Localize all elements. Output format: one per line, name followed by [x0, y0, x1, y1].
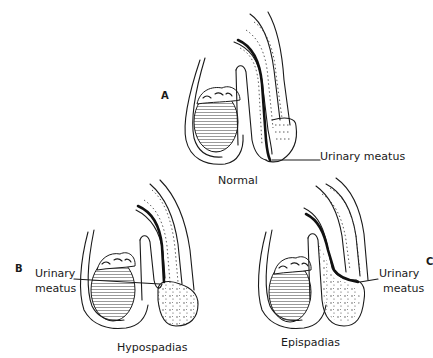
- panel-a-letter: A: [161, 90, 169, 101]
- panel-b-meatus-label-line1: Urinary: [35, 268, 75, 280]
- panel-a-normal-drawing: [185, 12, 297, 164]
- panel-a-meatus-label: Urinary meatus: [320, 151, 405, 163]
- panel-c-epispadias-drawing: [259, 178, 368, 328]
- panel-b-caption: Hypospadias: [117, 342, 187, 354]
- panel-b-meatus-label-line2: meatus: [35, 283, 76, 295]
- panel-c-meatus-label-line1: Urinary: [379, 268, 419, 280]
- anatomy-illustration: [0, 0, 433, 358]
- panel-b-hypospadias-drawing: [81, 180, 198, 328]
- panel-b-letter: B: [15, 263, 23, 274]
- panel-c-caption: Epispadias: [281, 337, 340, 349]
- panel-c-meatus-label-line2: meatus: [383, 283, 424, 295]
- panel-c-letter: C: [426, 256, 433, 267]
- panel-c-meatus-leader: [360, 279, 378, 282]
- panel-a-caption: Normal: [218, 175, 258, 187]
